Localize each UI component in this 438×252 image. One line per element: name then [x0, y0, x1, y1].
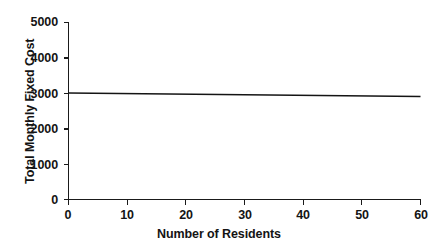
x-tick-label-60: 60: [414, 209, 428, 222]
x-tick-label-50: 50: [355, 209, 369, 222]
x-tick-label-20: 20: [179, 209, 193, 222]
fixed-cost-line-chart: 5000 4000 3000 2000 1000 0 0 10 20 30 40…: [0, 0, 438, 252]
x-tick-label-0: 0: [65, 209, 72, 222]
x-axis-title: Number of Residents: [0, 228, 438, 241]
series-line-total-monthly-fixed-cost: [69, 93, 421, 97]
y-axis-title: Total Monthly Fixed Cost: [24, 11, 37, 211]
x-tick-label-40: 40: [296, 209, 310, 222]
x-tick-label-10: 10: [120, 209, 134, 222]
x-tick-label-30: 30: [238, 209, 252, 222]
